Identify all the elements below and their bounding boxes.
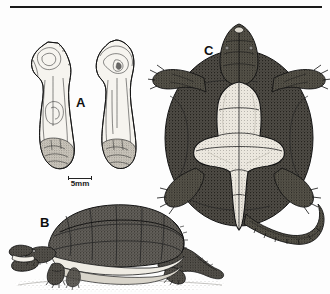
panel-c-turtle-ventral: [148, 18, 330, 262]
scale-bar-label: 5mm: [68, 179, 92, 188]
bone-specimen-left: [32, 42, 75, 169]
bone-specimen-right: [96, 40, 136, 169]
panel-label-c: C: [204, 44, 214, 57]
figure-plate: A B C 5mm: [0, 0, 330, 294]
turtle-head-ventral: [220, 24, 258, 86]
scale-bar-line: [68, 178, 92, 179]
scale-bar: 5mm: [68, 178, 92, 188]
top-rule-divider: [10, 6, 322, 8]
panel-label-a: A: [76, 96, 86, 109]
panel-label-b: B: [40, 216, 50, 229]
turtle-head: [9, 245, 56, 271]
